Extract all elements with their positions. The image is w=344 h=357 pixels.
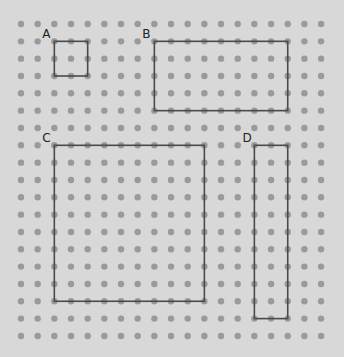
shape-label-c: C [42,131,50,145]
shapes: ABCD [42,27,287,318]
grid-dot [318,263,324,269]
grid-dot [51,125,57,131]
grid-dot [201,21,207,27]
grid-dot [18,21,24,27]
grid-dot [201,315,207,321]
grid-dot [218,90,224,96]
grid-dot [185,211,191,217]
grid-dot [101,177,107,183]
grid-dot [201,90,207,96]
grid-dot [168,55,174,61]
grid-dot [185,333,191,339]
grid-dot [185,21,191,27]
grid-dot [68,21,74,27]
grid-dot [268,21,274,27]
grid-dot [134,229,140,235]
grid-dot [301,125,307,131]
grid-dot [101,333,107,339]
grid-dot [251,55,257,61]
grid-dot [134,38,140,44]
grid-dot [118,90,124,96]
grid-dot [268,246,274,252]
grid-dot [151,315,157,321]
grid-dot [318,194,324,200]
grid-dot [118,177,124,183]
grid-dot [318,229,324,235]
grid-dot [101,21,107,27]
grid-dot [34,229,40,235]
grid-dot [185,229,191,235]
grid-dot [268,281,274,287]
grid-dot [285,125,291,131]
grid-dot [318,211,324,217]
grid-dot [101,38,107,44]
grid-dot [34,194,40,200]
grid-dot [251,125,257,131]
grid-dot [134,246,140,252]
grid-dot [185,90,191,96]
grid-dot [134,73,140,79]
grid-dot [134,177,140,183]
shape-b: B [142,27,287,110]
grid-dot [68,55,74,61]
shape-outline-c [54,145,204,301]
grid-dot [301,315,307,321]
grid-dot [84,107,90,113]
grid-dot [34,73,40,79]
grid-dot [134,125,140,131]
grid-dot [151,159,157,165]
grid-dot [301,90,307,96]
grid-dot [318,21,324,27]
grid-dot [235,333,241,339]
grid-dot [235,298,241,304]
grid-dot [134,333,140,339]
grid-dot [118,211,124,217]
grid-dot [218,263,224,269]
grid-dot [84,281,90,287]
grid-dot [151,125,157,131]
grid-dot [268,73,274,79]
grid-dot [68,229,74,235]
grid-dot [101,263,107,269]
grid-dot [301,177,307,183]
grid-dot [18,159,24,165]
grid-dot [301,263,307,269]
grid-dot [34,107,40,113]
grid-dot [18,263,24,269]
grid-dot [84,246,90,252]
grid-dot [201,125,207,131]
grid-dot [168,315,174,321]
grid-dot [185,159,191,165]
grid-dot [168,333,174,339]
grid-dot [118,315,124,321]
grid-dot [34,125,40,131]
grid-dot [268,125,274,131]
grid-dot [318,246,324,252]
grid-dot [151,246,157,252]
grid-dot [218,73,224,79]
grid-dot [168,125,174,131]
grid-dot [235,73,241,79]
grid-dot [18,246,24,252]
grid-dot [235,263,241,269]
grid-dot [84,90,90,96]
grid-dot [51,315,57,321]
grid-dot [285,21,291,27]
grid-dot [118,159,124,165]
grid-dot [68,90,74,96]
grid-dot [68,125,74,131]
grid-dot [118,55,124,61]
grid-dot [134,194,140,200]
grid-dot [301,194,307,200]
grid-dot [18,315,24,321]
grid-dot [84,159,90,165]
grid-dot [318,55,324,61]
grid-dot [34,263,40,269]
grid-dot [251,73,257,79]
grid-dot [235,315,241,321]
grid-dot [134,159,140,165]
grid-dots [18,21,324,339]
grid-dot [285,333,291,339]
grid-dot [268,159,274,165]
grid-dot [84,211,90,217]
